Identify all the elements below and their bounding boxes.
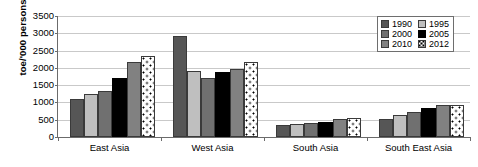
legend-item-2000[interactable]: 2000 [381, 30, 412, 39]
x-axis-label-east-asia: East Asia [58, 142, 161, 153]
bar-south-asia-2000 [304, 123, 318, 137]
legend-label: 2000 [392, 30, 412, 39]
bar-west-asia-2012 [244, 62, 258, 137]
bar-west-asia-2000 [201, 78, 215, 137]
y-axis-tick-label: 2500 [33, 46, 54, 56]
y-axis-tick-mark [55, 85, 59, 86]
x-axis-label-west-asia: West Asia [161, 142, 264, 153]
y-axis-tick-label: 0 [49, 132, 54, 142]
bar-south-east-asia-2012 [450, 105, 464, 137]
legend-item-2010[interactable]: 2010 [381, 40, 412, 49]
legend-swatch-icon-1995 [418, 20, 426, 28]
legend-swatch-icon-2000 [381, 30, 389, 38]
legend-item-1990[interactable]: 1990 [381, 20, 412, 29]
y-axis-tick-mark [55, 51, 59, 52]
y-axis-tick-mark [55, 102, 59, 103]
bar-east-asia-2010 [127, 62, 141, 137]
bar-south-asia-1995 [290, 124, 304, 137]
bar-south-asia-1990 [276, 125, 290, 137]
bar-west-asia-1995 [187, 71, 201, 137]
bar-east-asia-2000 [98, 91, 112, 137]
bar-east-asia-1990 [70, 99, 84, 137]
x-axis-tick [161, 137, 162, 141]
legend-label: 2010 [392, 40, 412, 49]
bar-south-asia-2005 [318, 122, 332, 137]
legend-item-2005[interactable]: 2005 [418, 30, 449, 39]
legend-swatch-icon-1990 [381, 20, 389, 28]
bar-group [70, 16, 155, 137]
y-axis-tick-label: 3500 [33, 11, 54, 21]
x-axis-tick [367, 137, 368, 141]
bar-south-east-asia-1995 [393, 115, 407, 137]
bar-east-asia-2012 [141, 56, 155, 137]
y-axis-tick-mark [55, 68, 59, 69]
y-axis-tick-mark [55, 16, 59, 17]
legend-label: 1995 [429, 20, 449, 29]
legend-swatch-icon-2012 [418, 40, 426, 48]
x-axis-tick [264, 137, 265, 141]
bar-south-east-asia-2005 [421, 108, 435, 137]
y-axis-tick-label: 2000 [33, 63, 54, 73]
y-axis-tick-label: 1500 [33, 80, 54, 90]
y-axis-tick-label: 3000 [33, 29, 54, 39]
bar-chart: toe/'000 persons 05001000150020002500300… [0, 0, 478, 167]
bar-west-asia-2005 [215, 72, 229, 137]
legend-label: 1990 [392, 20, 412, 29]
bar-group [276, 16, 361, 137]
y-axis-tick-mark [55, 33, 59, 34]
bar-south-east-asia-2010 [436, 105, 450, 137]
y-axis-tick-mark [55, 120, 59, 121]
legend-swatch-icon-2005 [418, 30, 426, 38]
y-axis-tick-label: 500 [38, 115, 54, 125]
x-axis-label-south-asia: South Asia [264, 142, 367, 153]
legend-label: 2012 [429, 40, 449, 49]
bar-south-east-asia-1990 [379, 119, 393, 137]
x-axis-label-south-east-asia: South East Asia [367, 142, 470, 153]
x-axis-tick [58, 137, 59, 141]
x-axis-tick [470, 137, 471, 141]
y-axis-tick-label: 1000 [33, 98, 54, 108]
legend-item-2012[interactable]: 2012 [418, 40, 449, 49]
bar-east-asia-2005 [112, 78, 126, 137]
legend-swatch-icon-2010 [381, 40, 389, 48]
legend-label: 2005 [429, 30, 449, 39]
bar-south-east-asia-2000 [407, 112, 421, 137]
bar-south-asia-2012 [347, 118, 361, 137]
bar-group [173, 16, 258, 137]
y-axis-title: toe/'000 persons [17, 0, 28, 98]
chart-legend: 199019952000200520102012 [377, 16, 454, 52]
bar-west-asia-1990 [173, 36, 187, 137]
legend-item-1995[interactable]: 1995 [418, 20, 449, 29]
bar-east-asia-1995 [84, 94, 98, 137]
bar-south-asia-2010 [333, 119, 347, 137]
bar-west-asia-2010 [230, 69, 244, 137]
